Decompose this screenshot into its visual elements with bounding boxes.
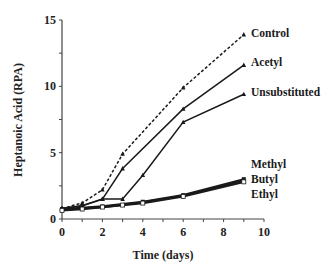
x-axis-title: Time (days)	[133, 248, 194, 262]
y-tick-label: 10	[44, 79, 56, 93]
series-line-butyl	[62, 181, 244, 210]
y-tick-label: 5	[50, 146, 56, 160]
series-line-control	[62, 35, 244, 209]
series-line-unsubstituted	[62, 94, 244, 208]
x-tick-label: 8	[221, 225, 227, 239]
data-point-control	[181, 85, 186, 89]
data-point-ethyl	[80, 207, 84, 211]
x-tick-label: 6	[180, 225, 186, 239]
series-label-unsubstituted: Unsubstituted	[251, 86, 321, 98]
y-tick-label: 0	[50, 212, 56, 226]
x-tick-label: 10	[258, 225, 270, 239]
axes: 0246810051015	[44, 13, 270, 239]
y-axis-title: Heptanoic Acid (RPA)	[11, 63, 25, 177]
data-point-ethyl	[242, 180, 246, 184]
series-label-ethyl: Ethyl	[251, 188, 278, 201]
y-tick-label: 15	[44, 13, 56, 27]
data-point-ethyl	[60, 208, 64, 212]
data-point-ethyl	[100, 205, 104, 209]
series-label-acetyl: Acetyl	[251, 56, 282, 69]
series-line-methyl	[62, 179, 244, 209]
series-group	[60, 32, 246, 212]
x-tick-label: 2	[99, 225, 105, 239]
series-label-methyl: Methyl	[251, 158, 286, 171]
series-label-butyl: Butyl	[251, 173, 278, 186]
x-tick-label: 4	[140, 225, 146, 239]
data-point-acetyl	[242, 63, 247, 67]
data-point-unsubstituted	[242, 92, 247, 96]
line-chart: 0246810051015 ControlAcetylUnsubstituted…	[0, 0, 333, 275]
x-tick-label: 0	[59, 225, 65, 239]
series-labels: ControlAcetylUnsubstitutedMethylButylEth…	[251, 27, 321, 201]
data-point-control	[120, 151, 125, 155]
series-label-control: Control	[251, 27, 289, 39]
data-point-ethyl	[141, 201, 145, 205]
data-point-ethyl	[121, 203, 125, 207]
data-point-ethyl	[181, 194, 185, 198]
data-point-control	[242, 32, 247, 36]
